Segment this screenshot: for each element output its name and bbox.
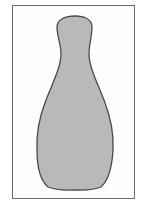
pin-silhouette bbox=[37, 16, 113, 190]
bowling-pin-icon bbox=[0, 0, 141, 208]
